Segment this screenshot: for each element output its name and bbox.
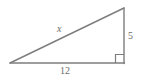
triangle-drawing <box>0 0 152 84</box>
horizontal-leg-label: 12 <box>60 66 70 76</box>
right-angle-square-icon <box>116 55 125 64</box>
hypotenuse-line <box>10 8 124 63</box>
hypotenuse-label: x <box>57 24 61 34</box>
vertical-leg-label: 5 <box>128 31 133 41</box>
right-triangle-figure: x 5 12 <box>0 0 152 84</box>
